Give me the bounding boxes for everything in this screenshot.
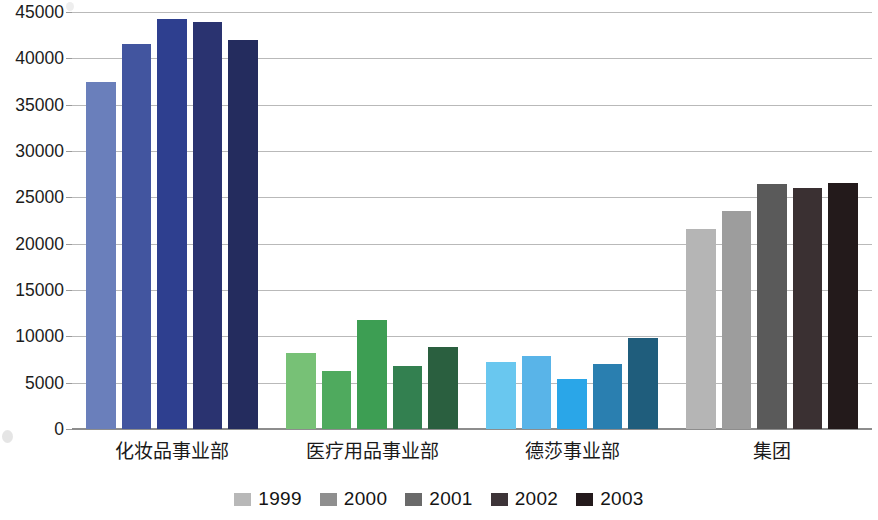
bar xyxy=(522,356,552,429)
bar xyxy=(157,19,187,429)
bar xyxy=(393,366,423,429)
y-axis-tick-label: 45000 xyxy=(0,2,64,23)
legend-color-swatch xyxy=(491,493,508,506)
x-axis-category-label: 集团 xyxy=(753,436,791,463)
legend-label: 2000 xyxy=(344,488,387,510)
y-axis-tick-mark xyxy=(66,383,72,384)
y-axis-tick-mark xyxy=(66,105,72,106)
y-axis-tick-label: 25000 xyxy=(0,187,64,208)
legend-item[interactable]: 2003 xyxy=(576,488,643,510)
bar xyxy=(286,353,316,429)
y-axis-tick-label: 20000 xyxy=(0,233,64,254)
y-axis-tick-label: 5000 xyxy=(0,372,64,393)
plot-area xyxy=(72,12,872,429)
legend-label: 1999 xyxy=(258,488,301,510)
y-axis-tick-mark xyxy=(66,290,72,291)
bar xyxy=(557,379,587,429)
y-axis-tick-mark xyxy=(66,429,72,430)
x-axis-category-labels: 化妆品事业部医疗用品事业部德莎事业部集团 xyxy=(72,436,872,466)
bar xyxy=(122,44,152,429)
y-axis-tick-label: 30000 xyxy=(0,141,64,162)
bar xyxy=(757,184,787,429)
y-axis-tick-mark xyxy=(66,58,72,59)
y-axis-tick-label: 10000 xyxy=(0,326,64,347)
scan-artifact xyxy=(66,2,74,11)
y-axis-tick-mark xyxy=(66,197,72,198)
gridline xyxy=(72,12,872,13)
bar xyxy=(322,371,352,429)
bar xyxy=(686,229,716,429)
bar xyxy=(722,211,752,429)
legend-color-swatch xyxy=(576,493,593,506)
legend-label: 2001 xyxy=(429,488,472,510)
y-axis-tick-mark xyxy=(66,12,72,13)
legend-item[interactable]: 1999 xyxy=(234,488,301,510)
y-axis-tick-label: 15000 xyxy=(0,280,64,301)
bar xyxy=(593,364,623,429)
x-axis-category-label: 化妆品事业部 xyxy=(115,436,229,463)
y-axis-tick-mark xyxy=(66,336,72,337)
x-axis-category-label: 医疗用品事业部 xyxy=(306,436,439,463)
y-axis-tick-label: 35000 xyxy=(0,94,64,115)
bar xyxy=(357,320,387,429)
legend-item[interactable]: 2002 xyxy=(491,488,558,510)
bar xyxy=(228,40,258,429)
legend-label: 2002 xyxy=(515,488,558,510)
legend-item[interactable]: 2001 xyxy=(405,488,472,510)
legend-item[interactable]: 2000 xyxy=(320,488,387,510)
bar xyxy=(428,347,458,429)
x-axis-category-label: 德莎事业部 xyxy=(525,436,620,463)
bar xyxy=(486,362,516,429)
bar xyxy=(828,183,858,429)
scan-artifact xyxy=(2,430,13,443)
y-axis-tick-mark xyxy=(66,244,72,245)
bar xyxy=(628,338,658,429)
legend-color-swatch xyxy=(320,493,337,506)
y-axis-tick-label: 40000 xyxy=(0,48,64,69)
bar xyxy=(86,82,116,429)
bar-chart: 4500040000350003000025000200001500010000… xyxy=(0,0,878,520)
bar xyxy=(193,22,223,429)
legend-label: 2003 xyxy=(600,488,643,510)
bar xyxy=(793,188,823,429)
legend-color-swatch xyxy=(234,493,251,506)
chart-legend: 19992000200120022003 xyxy=(0,488,878,510)
y-axis-tick-mark xyxy=(66,151,72,152)
legend-color-swatch xyxy=(405,493,422,506)
